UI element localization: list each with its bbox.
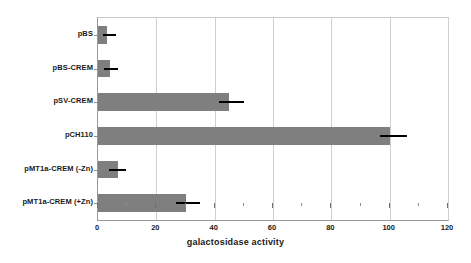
y-axis-tick — [94, 35, 98, 36]
x-axis-minor-tick — [185, 203, 186, 206]
x-axis-tick — [272, 203, 273, 208]
gridline — [156, 18, 157, 220]
x-axis-tick — [330, 203, 331, 208]
y-axis-tick — [94, 102, 98, 103]
bar-row — [98, 194, 448, 212]
category-label: pMT1a-CREM (+Zn) — [0, 198, 93, 206]
x-axis-tick-label: 80 — [326, 224, 334, 232]
x-axis-tick-label: 40 — [209, 224, 217, 232]
gridline — [331, 18, 332, 220]
gridline — [273, 18, 274, 220]
x-axis-minor-tick — [418, 203, 419, 206]
x-axis-tick-label: 120 — [441, 224, 454, 232]
error-bar — [103, 34, 116, 36]
gridline — [448, 18, 449, 220]
x-axis-title: galactosidase activity — [0, 238, 471, 247]
bar-row — [98, 26, 448, 44]
bar-row — [98, 93, 448, 111]
bar-row — [98, 60, 448, 78]
x-axis-tick — [389, 203, 390, 208]
category-label: pBS-CREM — [0, 64, 93, 72]
x-axis-tick — [155, 203, 156, 208]
x-axis-tick-label: 0 — [95, 224, 99, 232]
bar-row — [98, 161, 448, 179]
bar — [98, 127, 390, 145]
y-axis-tick — [94, 170, 98, 171]
category-label-column: pBSpBS-CREMpSV-CREMpCH110pMT1a-CREM (-Zn… — [0, 17, 93, 219]
error-bar — [219, 101, 244, 103]
category-label: pSV-CREM — [0, 97, 93, 105]
x-axis-minor-tick — [301, 203, 302, 206]
category-label: pBS — [0, 30, 93, 38]
error-bar — [176, 202, 201, 204]
category-label: pMT1a-CREM (-Zn) — [0, 165, 93, 173]
category-label: pCH110 — [0, 131, 93, 139]
error-bar — [109, 169, 125, 171]
x-axis-tick-label: 60 — [268, 224, 276, 232]
bar — [98, 93, 229, 111]
x-axis-tick — [97, 203, 98, 208]
y-axis-tick — [94, 136, 98, 137]
bar — [98, 194, 186, 212]
x-axis-minor-tick — [243, 203, 244, 206]
x-axis-tick — [214, 203, 215, 208]
gridline — [390, 18, 391, 220]
x-axis-minor-tick — [360, 203, 361, 206]
plot-area — [97, 17, 449, 221]
y-axis-tick — [94, 69, 98, 70]
bar-chart-figure: pBSpBS-CREMpSV-CREMpCH110pMT1a-CREM (-Zn… — [0, 0, 471, 263]
error-bar — [104, 68, 118, 70]
x-axis-tick-label: 20 — [151, 224, 159, 232]
gridline — [215, 18, 216, 220]
error-bar — [380, 135, 408, 137]
x-axis-minor-tick — [126, 203, 127, 206]
x-axis-tick — [447, 203, 448, 208]
x-axis-tick-label: 100 — [382, 224, 395, 232]
